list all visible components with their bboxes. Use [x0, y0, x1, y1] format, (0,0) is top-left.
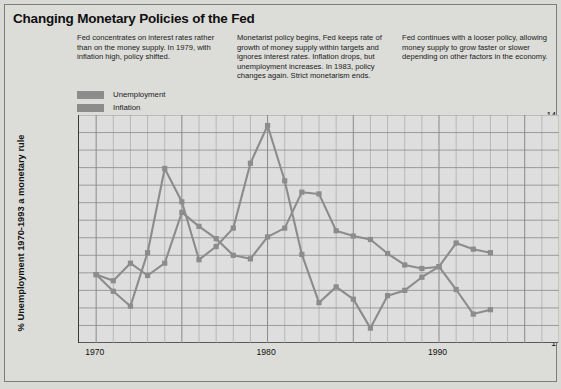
x-tick-label-1970: 1970	[85, 347, 104, 357]
data-point-inflation-1973	[145, 250, 150, 255]
data-point-inflation-1979	[248, 161, 253, 166]
data-point-inflation-1983	[316, 300, 321, 305]
data-point-inflation-1982	[299, 252, 304, 257]
chart-legend: Unemployment Inflation	[77, 89, 165, 115]
legend-item-unemployment: Unemployment	[77, 89, 165, 100]
data-point-unemployment-1989	[419, 266, 424, 271]
data-point-inflation-1975	[179, 199, 184, 204]
data-point-unemployment-1993	[488, 250, 493, 255]
data-point-unemployment-1976	[196, 224, 201, 229]
y-axis-label: % Unemployment 1970-1993 a monetary rule	[16, 115, 30, 351]
data-point-unemployment-1984	[334, 228, 339, 233]
data-point-inflation-1987	[385, 293, 390, 298]
x-tick-label-1990: 1990	[428, 347, 447, 357]
data-point-unemployment-1987	[385, 251, 390, 256]
data-point-unemployment-1973	[145, 273, 150, 278]
data-point-inflation-1990	[436, 264, 441, 269]
legend-item-inflation: Inflation	[77, 102, 165, 113]
data-point-inflation-1993	[488, 307, 493, 312]
legend-label-unemployment: Unemployment	[113, 90, 165, 99]
legend-swatch-inflation	[77, 104, 104, 112]
data-point-unemployment-1983	[316, 191, 321, 196]
legend-label-inflation: Inflation	[113, 103, 140, 112]
data-point-unemployment-1982	[299, 190, 304, 195]
data-point-unemployment-1988	[402, 262, 407, 267]
data-point-unemployment-1980	[265, 234, 270, 239]
series-line-unemployment	[96, 192, 490, 281]
data-point-inflation-1971	[111, 289, 116, 294]
data-point-inflation-1986	[368, 325, 373, 330]
data-point-inflation-1977	[214, 244, 219, 249]
data-point-inflation-1974	[162, 166, 167, 171]
data-point-inflation-1985	[351, 297, 356, 302]
data-point-inflation-1988	[402, 288, 407, 293]
x-tick-label-1980: 1980	[257, 347, 276, 357]
page-title: Changing Monetary Policies of the Fed	[13, 11, 255, 26]
data-point-unemployment-1978	[231, 253, 236, 258]
data-point-inflation-1978	[231, 226, 236, 231]
legend-swatch-unemployment	[77, 91, 104, 99]
figure-inner-panel: Changing Monetary Policies of the Fed Fe…	[4, 4, 557, 382]
data-point-unemployment-1971	[111, 278, 116, 283]
data-point-unemployment-1972	[128, 261, 133, 266]
figure-frame: Changing Monetary Policies of the Fed Fe…	[0, 0, 561, 389]
data-point-inflation-1984	[334, 284, 339, 289]
data-point-inflation-1980	[265, 123, 270, 128]
chart-svg	[79, 115, 559, 343]
series-line-inflation	[96, 126, 490, 329]
data-point-unemployment-1992	[471, 247, 476, 252]
annotation-note-3: Fed continues with a looser policy, allo…	[402, 33, 557, 62]
data-point-inflation-1991	[454, 287, 459, 292]
annotation-note-1: Fed concentrates on interest rates rathe…	[77, 33, 227, 62]
chart: % Unemployment 1970-1993 a monetary rule…	[62, 115, 558, 351]
data-point-unemployment-1977	[214, 236, 219, 241]
data-point-unemployment-1985	[351, 233, 356, 238]
data-point-inflation-1989	[419, 275, 424, 280]
data-point-unemployment-1981	[282, 226, 287, 231]
data-point-inflation-1981	[282, 178, 287, 183]
data-point-inflation-1972	[128, 304, 133, 309]
data-point-unemployment-1986	[368, 237, 373, 242]
data-point-unemployment-1974	[162, 261, 167, 266]
data-point-unemployment-1979	[248, 256, 253, 261]
data-point-unemployment-1991	[454, 240, 459, 245]
data-point-inflation-1976	[196, 257, 201, 262]
annotation-note-2: Monetarist policy begins, Fed keeps rate…	[237, 33, 392, 81]
data-point-inflation-1970	[94, 272, 99, 277]
plot-area	[78, 115, 558, 343]
data-point-inflation-1992	[471, 311, 476, 316]
